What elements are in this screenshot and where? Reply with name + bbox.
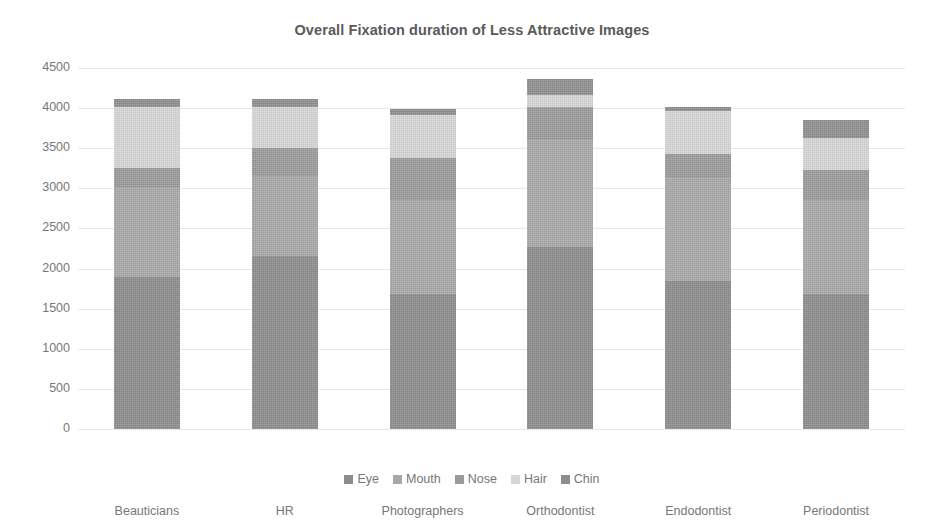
x-axis-label-beauticians: Beauticians [78,504,216,518]
bar-segment-chin[interactable] [114,99,180,106]
bar-segment-mouth[interactable] [252,176,318,256]
legend-swatch-eye-icon [344,475,353,484]
bar-segment-eye[interactable] [527,247,593,429]
bar-segment-nose[interactable] [390,158,456,201]
y-axis-tick-2500: 2500 [16,220,70,234]
bar-segment-nose[interactable] [114,168,180,188]
y-axis-tick-4000: 4000 [16,100,70,114]
legend-item-nose[interactable]: Nose [455,472,497,486]
gridline [78,429,905,430]
bar-segment-eye[interactable] [252,256,318,429]
legend-item-chin[interactable]: Chin [561,472,600,486]
bar-segment-eye[interactable] [803,294,869,429]
y-axis-tick-2000: 2000 [16,261,70,275]
chart-title: Overall Fixation duration of Less Attrac… [0,22,944,38]
legend-label: Hair [524,472,547,486]
y-axis-tick-0: 0 [16,421,70,435]
x-axis-label-photographers: Photographers [354,504,492,518]
gridline [78,349,905,350]
legend-swatch-chin-icon [561,475,570,484]
gridline [78,188,905,189]
bar-segment-nose[interactable] [665,154,731,178]
gridline [78,269,905,270]
x-axis-label-hr: HR [216,504,354,518]
bar-segment-hair[interactable] [114,107,180,169]
legend-swatch-nose-icon [455,475,464,484]
bar-segment-mouth[interactable] [803,200,869,295]
bar-segment-nose[interactable] [527,107,593,140]
bar-periodontist[interactable] [803,68,869,429]
legend-item-hair[interactable]: Hair [511,472,547,486]
bar-hr[interactable] [252,68,318,429]
bar-beauticians[interactable] [114,68,180,429]
y-axis-tick-4500: 4500 [16,60,70,74]
bar-segment-chin[interactable] [803,120,869,138]
bar-segment-hair[interactable] [252,107,318,149]
bar-segment-mouth[interactable] [527,140,593,247]
legend-label: Mouth [406,472,441,486]
x-axis-label-endodontist: Endodontist [629,504,767,518]
bar-segment-nose[interactable] [252,148,318,175]
bar-endodontist[interactable] [665,68,731,429]
bar-segment-hair[interactable] [803,138,869,170]
gridline [78,108,905,109]
legend-label: Eye [357,472,379,486]
y-axis-tick-1000: 1000 [16,341,70,355]
bar-segment-eye[interactable] [114,277,180,429]
legend-label: Chin [574,472,600,486]
legend-label: Nose [468,472,497,486]
gridline [78,68,905,69]
bar-segment-eye[interactable] [665,281,731,429]
legend-swatch-hair-icon [511,475,520,484]
y-axis-tick-1500: 1500 [16,301,70,315]
bar-segment-hair[interactable] [527,95,593,108]
gridline [78,389,905,390]
bar-segment-hair[interactable] [390,115,456,158]
bar-segment-chin[interactable] [252,99,318,107]
bar-segment-mouth[interactable] [114,188,180,276]
bar-segment-eye[interactable] [390,294,456,429]
y-axis-tick-3000: 3000 [16,180,70,194]
y-axis-tick-labels: 450040003500300025002000150010005000 [0,68,70,429]
bar-segment-chin[interactable] [527,79,593,94]
bar-photographers[interactable] [390,68,456,429]
bar-segment-mouth[interactable] [390,200,456,294]
bar-orthodontist[interactable] [527,68,593,429]
gridline [78,148,905,149]
y-axis-tick-500: 500 [16,381,70,395]
x-axis-label-orthodontist: Orthodontist [492,504,630,518]
y-axis-tick-3500: 3500 [16,140,70,154]
gridline [78,228,905,229]
bar-segment-hair[interactable] [665,111,731,154]
legend-item-eye[interactable]: Eye [344,472,379,486]
plot-area: BeauticiansHRPhotographersOrthodontistEn… [78,68,905,429]
bar-segment-nose[interactable] [803,170,869,200]
chart-container: Overall Fixation duration of Less Attrac… [0,0,944,526]
legend-item-mouth[interactable]: Mouth [393,472,441,486]
gridline [78,309,905,310]
bar-segment-mouth[interactable] [665,178,731,281]
chart-legend: EyeMouthNoseHairChin [0,472,944,486]
legend-swatch-mouth-icon [393,475,402,484]
x-axis-label-periodontist: Periodontist [767,504,905,518]
